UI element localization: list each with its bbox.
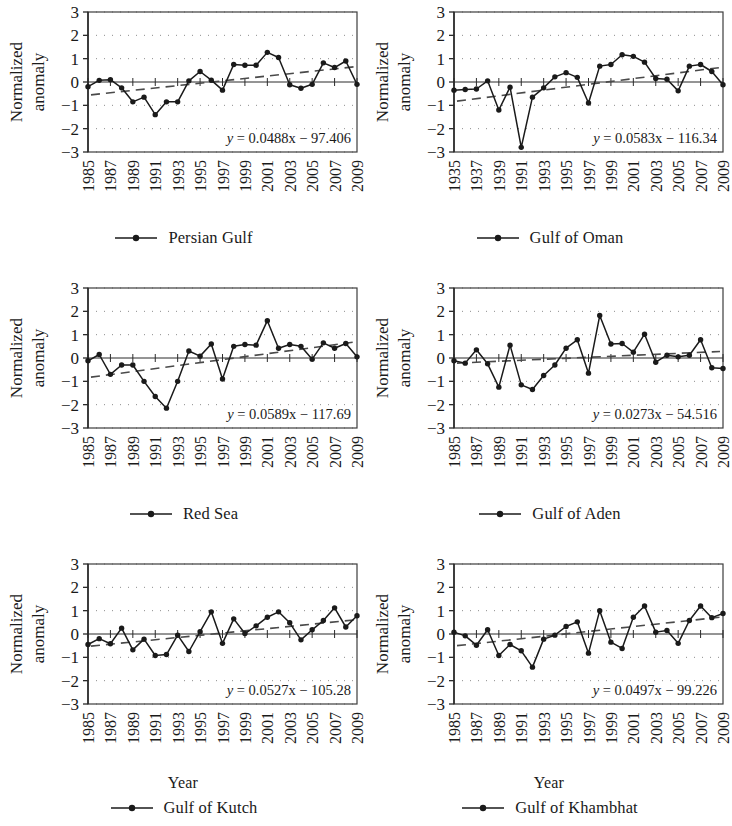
x-tick-label: 1999 — [237, 712, 254, 744]
x-tick-label: 2001 — [625, 160, 642, 192]
legend-marker-icon — [109, 801, 155, 815]
data-point-marker — [485, 78, 490, 83]
y-tick-label: 3 — [437, 3, 446, 22]
y-tick-label: −2 — [427, 120, 445, 139]
data-point-marker — [631, 615, 636, 620]
x-tick-label: 1995 — [192, 160, 209, 192]
data-point-marker — [186, 649, 191, 654]
y-tick-label: −1 — [427, 648, 445, 667]
data-point-marker — [321, 340, 326, 345]
data-point-marker — [153, 394, 158, 399]
data-point-marker — [563, 346, 568, 351]
trend-equation-label: y = 0.0583x − 116.34 — [591, 130, 718, 146]
data-point-marker — [687, 618, 692, 623]
data-point-marker — [519, 648, 524, 653]
y-tick-label: 1 — [71, 602, 80, 621]
data-point-marker — [231, 62, 236, 67]
data-point-marker — [164, 405, 169, 410]
legend-gulf-of-khambhat: Gulf of Khambhat — [366, 798, 732, 818]
y-tick-label: 0 — [437, 349, 446, 368]
x-tick-label: 1995 — [558, 712, 575, 744]
data-point-marker — [720, 366, 725, 371]
x-tick-label: 1991 — [513, 712, 530, 744]
data-point-marker — [642, 59, 647, 64]
data-point-marker — [653, 76, 658, 81]
x-tick-label: 1987 — [468, 436, 485, 468]
y-axis-title-line2: anomaly — [29, 328, 48, 387]
y-tick-label: −3 — [427, 143, 445, 162]
y-tick-label: 2 — [71, 578, 80, 597]
data-point-marker — [709, 69, 714, 74]
data-point-marker — [530, 664, 535, 669]
x-tick-label: 1995 — [558, 436, 575, 468]
x-tick-label: 2005 — [670, 712, 687, 744]
chart-plot-gulf-of-khambhat: 3210−1−2−3y = 0.0497x − 99.2261985198719… — [366, 552, 732, 774]
y-tick-label: −1 — [427, 372, 445, 391]
data-point-marker — [474, 347, 479, 352]
y-tick-label: 3 — [437, 279, 446, 298]
data-point-marker — [586, 650, 591, 655]
data-point-marker — [597, 608, 602, 613]
data-point-marker — [265, 318, 270, 323]
x-tick-label: 2007 — [693, 436, 710, 468]
data-point-marker — [552, 632, 557, 637]
chart-area-gulf-of-khambhat: 3210−1−2−3y = 0.0497x − 99.2261985198719… — [366, 552, 732, 774]
y-tick-label: 1 — [71, 50, 80, 69]
data-point-marker — [631, 54, 636, 59]
data-point-marker — [675, 354, 680, 359]
x-tick-label: 2009 — [349, 712, 366, 744]
x-tick-label: 2003 — [648, 436, 665, 468]
data-point-marker — [451, 358, 456, 363]
x-tick-label: 1995 — [558, 160, 575, 192]
x-tick-label: 1993 — [170, 160, 187, 192]
data-point-marker — [720, 611, 725, 616]
legend-label: Gulf of Oman — [530, 228, 624, 248]
data-point-marker — [507, 642, 512, 647]
y-tick-label: −3 — [427, 695, 445, 714]
data-point-marker — [608, 639, 613, 644]
data-point-marker — [175, 632, 180, 637]
data-point-marker — [664, 77, 669, 82]
data-point-marker — [287, 82, 292, 87]
figure-container: 3210−1−2−3y = 0.0488x − 97.4061985198719… — [0, 0, 732, 826]
x-tick-label: 2007 — [327, 712, 344, 744]
data-point-marker — [321, 618, 326, 623]
y-tick-label: 3 — [71, 279, 80, 298]
y-axis-title-line2: anomaly — [395, 604, 414, 663]
data-point-marker — [242, 342, 247, 347]
data-point-marker — [653, 360, 658, 365]
data-point-marker — [507, 342, 512, 347]
data-point-marker — [141, 94, 146, 99]
x-tick-label: 1989 — [125, 436, 142, 468]
data-point-marker — [575, 75, 580, 80]
data-point-marker — [321, 60, 326, 65]
x-tick-label: 1987 — [102, 712, 119, 744]
chart-panel-gulf-of-oman: 3210−1−2−3y = 0.0583x − 116.341935193719… — [366, 0, 732, 275]
data-point-marker — [220, 376, 225, 381]
y-tick-label: −1 — [61, 648, 79, 667]
data-point-marker — [496, 653, 501, 658]
x-tick-label: 1987 — [102, 436, 119, 468]
chart-plot-red-sea: 3210−1−2−3y = 0.0589x − 117.691985198719… — [0, 276, 366, 498]
legend-marker-icon — [460, 801, 506, 815]
y-tick-label: 0 — [71, 349, 80, 368]
data-point-marker — [642, 603, 647, 608]
y-axis-title-line2: anomaly — [29, 52, 48, 111]
y-axis-title-line1: Normalized — [373, 41, 392, 122]
data-point-marker — [265, 50, 270, 55]
legend-persian-gulf: Persian Gulf — [0, 228, 366, 248]
data-point-marker — [619, 646, 624, 651]
x-tick-label: 2007 — [327, 160, 344, 192]
y-axis-title-line1: Normalized — [7, 593, 26, 674]
legend-gulf-of-kutch: Gulf of Kutch — [0, 798, 366, 818]
y-tick-label: 1 — [437, 50, 446, 69]
data-point-marker — [141, 379, 146, 384]
y-tick-label: 0 — [437, 73, 446, 92]
chart-panel-gulf-of-khambhat: 3210−1−2−3y = 0.0497x − 99.2261985198719… — [366, 552, 732, 826]
data-point-marker — [242, 62, 247, 67]
x-tick-label: 1987 — [468, 712, 485, 744]
x-tick-label: 2009 — [349, 436, 366, 468]
y-axis-title-line1: Normalized — [373, 593, 392, 674]
y-tick-label: −2 — [61, 672, 79, 691]
y-tick-label: −2 — [61, 120, 79, 139]
